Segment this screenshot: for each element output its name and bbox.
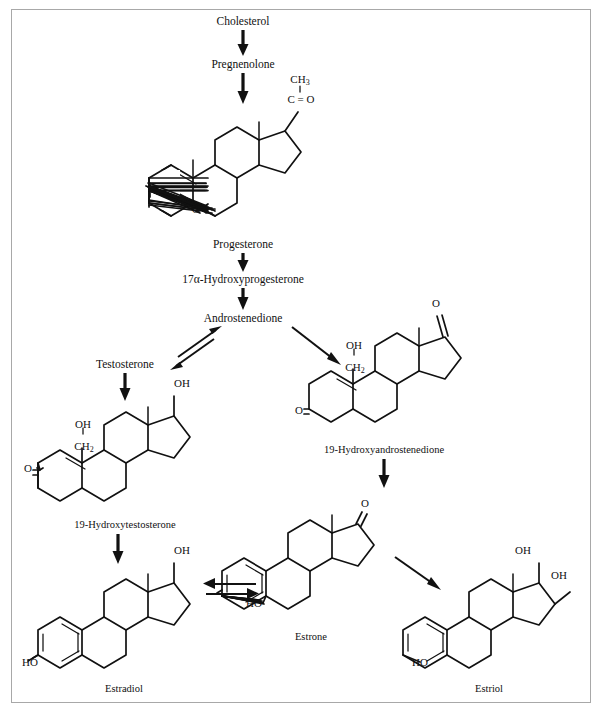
progesterone-keto-true [0, 0, 603, 715]
figure-canvas: Cholesterol Pregnenolone Progesterone 17… [0, 0, 603, 715]
progesterone-keto-bond [206, 208, 212, 213]
